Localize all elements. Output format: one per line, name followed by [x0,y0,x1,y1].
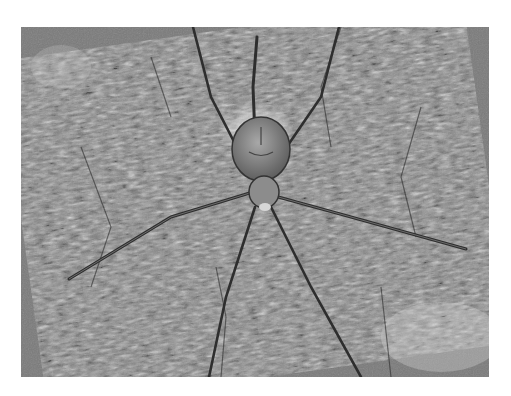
bark-and-spider-illustration [21,27,489,377]
spider-chelicerae [259,203,271,211]
spider-photo [21,27,489,377]
spider-abdomen [232,117,290,181]
